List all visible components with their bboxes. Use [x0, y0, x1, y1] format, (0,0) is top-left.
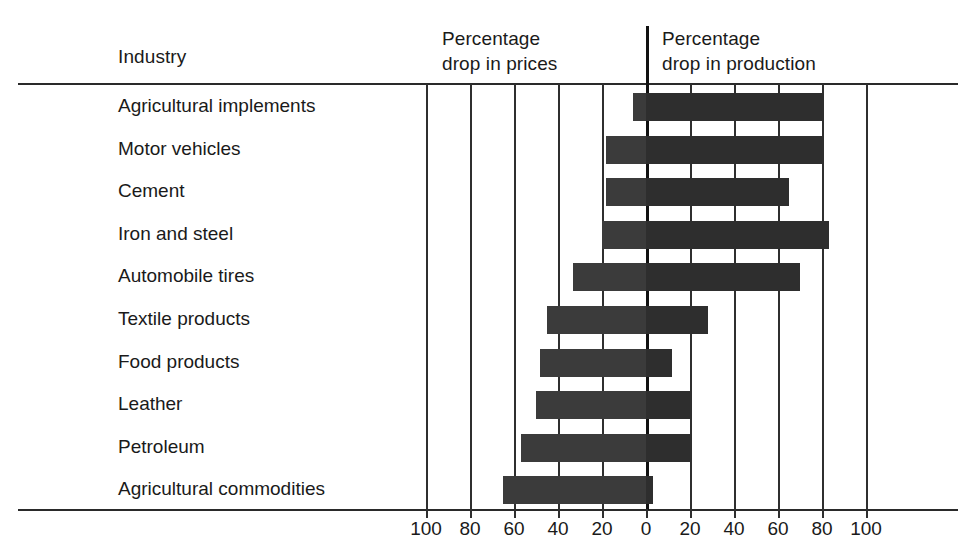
tick-label: 0 [641, 518, 652, 540]
bar-row [426, 214, 866, 257]
column-header-production: Percentage drop in production [662, 26, 816, 76]
chart-container: Industry Percentage drop in prices Perce… [0, 0, 976, 552]
category-label: Cement [118, 181, 185, 201]
tick-label: 40 [547, 518, 568, 540]
bar-prices [521, 434, 646, 462]
bar-production [646, 391, 690, 419]
tick-mark [646, 509, 648, 518]
bar-production [646, 221, 829, 249]
bar-row [426, 129, 866, 172]
tick-mark [866, 509, 868, 518]
bar-production [646, 349, 672, 377]
tick-mark [602, 509, 604, 518]
tick-mark [734, 509, 736, 518]
column-header-prices: Percentage drop in prices [442, 26, 557, 76]
bar-row [426, 384, 866, 427]
tick-mark [558, 509, 560, 518]
tick-label: 40 [723, 518, 744, 540]
tick-mark [778, 509, 780, 518]
bar-production [646, 434, 690, 462]
bar-production [646, 178, 789, 206]
bar-prices [540, 349, 646, 377]
bar-production [646, 263, 800, 291]
column-header-industry: Industry [118, 44, 186, 69]
tick-label: 100 [850, 518, 882, 540]
category-label: Petroleum [118, 437, 205, 457]
gridline-100 [866, 84, 868, 510]
tick-mark [690, 509, 692, 518]
category-label: Agricultural implements [118, 96, 315, 116]
tick-label: 20 [679, 518, 700, 540]
bar-row [426, 171, 866, 214]
bar-prices [536, 391, 646, 419]
tick-label: 100 [410, 518, 442, 540]
plot-area [426, 84, 866, 510]
bar-prices [547, 306, 646, 334]
bar-production [646, 476, 653, 504]
bar-row [426, 86, 866, 129]
category-label: Iron and steel [118, 224, 233, 244]
category-label: Agricultural commodities [118, 479, 325, 499]
tick-mark [822, 509, 824, 518]
tick-label: 80 [811, 518, 832, 540]
tick-mark [514, 509, 516, 518]
bar-production [646, 306, 708, 334]
bar-prices [602, 221, 646, 249]
tick-mark [470, 509, 472, 518]
tick-label: 80 [459, 518, 480, 540]
bar-row [426, 342, 866, 385]
tick-mark [426, 509, 428, 518]
bar-prices [503, 476, 646, 504]
bar-production [646, 136, 822, 164]
category-label: Motor vehicles [118, 139, 241, 159]
bar-row [426, 469, 866, 512]
bar-row [426, 256, 866, 299]
bar-row [426, 299, 866, 342]
tick-label: 20 [591, 518, 612, 540]
category-label: Leather [118, 394, 182, 414]
category-label: Textile products [118, 309, 250, 329]
bar-prices [633, 93, 646, 121]
bar-prices [606, 136, 646, 164]
category-label: Automobile tires [118, 266, 254, 286]
bar-prices [606, 178, 646, 206]
category-label: Food products [118, 352, 239, 372]
tick-label: 60 [503, 518, 524, 540]
bar-row [426, 427, 866, 470]
bar-prices [573, 263, 646, 291]
tick-label: 60 [767, 518, 788, 540]
bar-production [646, 93, 822, 121]
